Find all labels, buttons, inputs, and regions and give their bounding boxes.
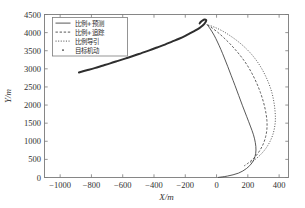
legend-label: 目标机动: [75, 46, 100, 55]
legend-label: 比例导引: [75, 37, 99, 46]
y-tick-label: 1000: [24, 136, 41, 146]
y-tick-label: 3500: [24, 46, 41, 56]
y-tick-label: 0: [37, 173, 41, 183]
curve-dotted: [208, 25, 275, 163]
y-tick-label: 2500: [24, 82, 41, 92]
x-tick-label: −400: [145, 180, 163, 190]
x-tick-label: −1000: [49, 180, 71, 190]
y-tick-label: 4000: [24, 28, 41, 38]
chart-legend: 比例+预测比例+追踪比例导引目标机动: [53, 18, 128, 57]
y-tick-label: 3000: [24, 64, 41, 74]
x-tick-label: 200: [241, 180, 254, 190]
curve-solid: [207, 24, 256, 177]
x-tick-label: −800: [83, 180, 101, 190]
chart-figure: −1000−800−600−400−2000200400 05001000150…: [0, 0, 305, 208]
x-axis-label: X/m: [158, 192, 174, 202]
y-axis-label: Y/m: [3, 89, 13, 104]
y-tick-label: 500: [28, 154, 41, 164]
x-tick-label: 400: [273, 180, 286, 190]
y-tick-label: 4500: [24, 10, 41, 20]
x-tick-label: −200: [176, 180, 194, 190]
legend-label: 比例+追踪: [75, 28, 105, 37]
curve-dashed: [207, 25, 267, 166]
trajectory-plot: −1000−800−600−400−2000200400 05001000150…: [0, 0, 305, 208]
y-tick-label: 2000: [24, 100, 41, 110]
legend-marker-dot: [62, 49, 64, 51]
x-tick-label: 0: [214, 180, 218, 190]
y-tick-label: 1500: [24, 118, 41, 128]
x-tick-label: −600: [114, 180, 132, 190]
legend-label: 比例+预测: [75, 19, 104, 28]
